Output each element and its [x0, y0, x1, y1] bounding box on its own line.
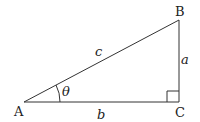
side-c-label: c [95, 44, 103, 59]
right-triangle-diagram: A B C a b c θ [0, 0, 200, 122]
side-c-hypotenuse [24, 20, 179, 102]
theta-angle-arc [56, 85, 60, 102]
vertex-c-label: C [175, 105, 185, 120]
side-b-label: b [97, 107, 105, 122]
theta-label: θ [62, 84, 70, 99]
right-angle-marker [167, 91, 179, 102]
vertex-b-label: B [175, 4, 185, 19]
vertex-a-label: A [13, 104, 24, 119]
side-a-label: a [181, 52, 189, 67]
